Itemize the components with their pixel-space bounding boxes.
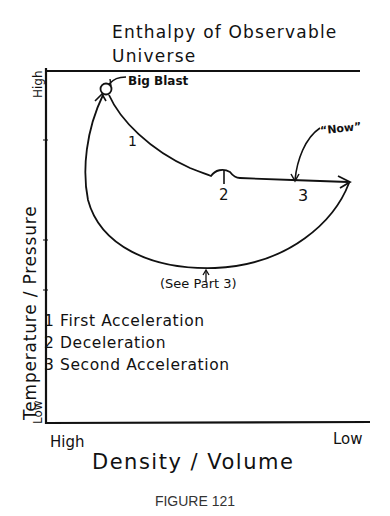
now-pointer — [295, 128, 320, 180]
x-axis-line — [46, 422, 370, 423]
curve-first-acceleration — [109, 95, 348, 182]
big-blast-pointer-tip — [110, 79, 111, 86]
diagram-title-line2: Universe — [112, 46, 196, 66]
see-part-label: (See Part 3) — [160, 276, 237, 291]
legend-item-deceleration: 2 Deceleration — [44, 334, 166, 352]
x-axis-low-label: Low — [333, 430, 363, 448]
figure-caption: FIGURE 121 — [0, 493, 390, 509]
point-2-label: 2 — [219, 186, 229, 204]
big-blast-pointer — [109, 77, 126, 84]
x-axis-label: Density / Volume — [92, 450, 294, 474]
legend-item-second-acceleration: 3 Second Acceleration — [44, 356, 230, 374]
y-axis-high-label: High — [31, 70, 45, 98]
x-axis-high-label: High — [50, 433, 84, 451]
point-3-label: 3 — [298, 186, 308, 205]
y-axis-low-label: Low — [31, 400, 45, 424]
diagram-title-line1: Enthalpy of Observable — [112, 22, 337, 42]
big-blast-label: Big Blast — [128, 74, 188, 88]
point-1-label: 1 — [128, 133, 137, 149]
legend-item-first-acceleration: 1 First Acceleration — [44, 312, 205, 330]
y-axis-label: Temperature / Pressure — [20, 206, 40, 420]
